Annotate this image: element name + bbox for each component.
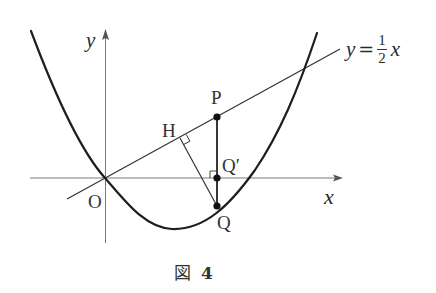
y-axis <box>102 29 109 243</box>
point-label-Q: Q <box>217 213 231 232</box>
caption-number: 4 <box>201 265 213 282</box>
point-label-P: P <box>211 88 222 107</box>
equation-equals: = <box>358 40 374 59</box>
figure-caption: 図 4 <box>174 265 213 282</box>
caption-kanji: 図 <box>174 265 191 282</box>
point-label-Q-prime: Q′ <box>222 156 240 175</box>
fraction-numerator: 1 <box>377 33 387 50</box>
line-equation-label: y = 1 2 x <box>346 33 400 66</box>
equation-fraction: 1 2 <box>377 33 387 66</box>
point-P <box>213 113 220 120</box>
x-axis <box>30 175 343 182</box>
point-Q-prime <box>213 174 220 181</box>
equation-y: y <box>346 39 355 60</box>
point-Q <box>213 202 220 209</box>
right-angle-mark-H <box>184 135 190 145</box>
equation-x: x <box>391 39 400 60</box>
origin-label: O <box>88 192 102 211</box>
segment-HQ <box>180 138 217 206</box>
line-y-half-x <box>67 49 340 199</box>
x-axis-label: x <box>324 186 334 208</box>
y-axis-label: y <box>86 30 95 51</box>
point-label-H: H <box>162 121 176 140</box>
fraction-denominator: 2 <box>378 50 386 66</box>
